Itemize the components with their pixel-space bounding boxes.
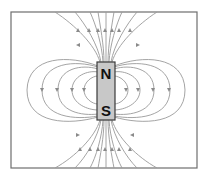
magnetic-field-diagram: N S xyxy=(0,0,207,180)
north-pole-label: N xyxy=(101,65,112,82)
south-pole-label: S xyxy=(101,102,111,119)
bar-magnet: N S xyxy=(97,62,115,120)
